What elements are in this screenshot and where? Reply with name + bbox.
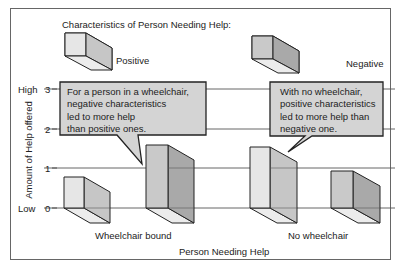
callout-right-line: With no wheelchair,: [280, 86, 376, 98]
y-axis-label: Amount of Help offered: [23, 101, 34, 199]
legend-positive-label: Positive: [116, 56, 149, 66]
callout-right-line: led to more help than: [280, 111, 376, 123]
legend-positive-swatch: [65, 33, 112, 70]
x-category-wheelchair-bound: Wheelchair bound: [95, 231, 172, 241]
legend-negative-label: Negative: [346, 59, 384, 69]
y-tick-0: 0: [45, 204, 50, 214]
y-tick-word-low: Low: [18, 204, 35, 214]
bar-wheelchair-negative: [146, 145, 194, 223]
y-tick-1: 1: [45, 164, 50, 174]
y-tick-2: 2: [45, 125, 50, 135]
callout-left-line: led to more help: [67, 111, 189, 123]
callout-right-text: With no wheelchair, positive characteris…: [280, 86, 376, 135]
bar-nowheelchair-positive: [250, 147, 297, 223]
callout-left-text: For a person in a wheelchair, negative c…: [67, 86, 189, 135]
y-tick-3: 3: [45, 85, 50, 95]
legend-title: Characteristics of Person Needing Help:: [62, 20, 231, 30]
callout-right-line: positive characteristics: [280, 98, 376, 110]
y-tick-word-high: High: [18, 85, 38, 95]
bar-nowheelchair-negative: [331, 171, 380, 223]
x-category-no-wheelchair: No wheelchair: [288, 231, 348, 241]
legend-negative-swatch: [252, 36, 299, 73]
callout-left-line: negative characteristics: [67, 98, 189, 110]
x-axis-label: Person Needing Help: [179, 247, 269, 257]
bar-wheelchair-positive: [64, 177, 110, 223]
callout-right-line: negative one.: [280, 123, 376, 135]
callout-left-line: For a person in a wheelchair,: [67, 86, 189, 98]
callout-left-line: than positive ones.: [67, 123, 189, 135]
